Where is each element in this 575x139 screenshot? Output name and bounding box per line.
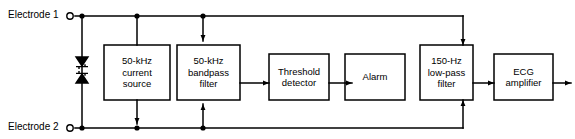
junction-dot xyxy=(79,125,84,130)
junction-dot xyxy=(134,13,139,18)
electrode-1-terminal-circle xyxy=(67,13,73,19)
junction-dot xyxy=(200,125,205,130)
diagram-lines xyxy=(0,0,575,139)
block-rect-alarm xyxy=(345,54,405,100)
zener-diode-upper xyxy=(76,57,88,69)
electrode-2-terminal-circle xyxy=(67,125,73,131)
zener-diode-lower xyxy=(76,71,88,83)
junction-dot xyxy=(79,13,84,18)
block-rect-ecg-amplifier xyxy=(494,54,553,100)
block-rect-threshold-detector xyxy=(269,54,329,100)
block-rect-current-source xyxy=(104,45,170,100)
block-rect-lowpass-filter xyxy=(420,45,473,100)
block-diagram-canvas: Electrode 1 Electrode 2 50-kHz current s… xyxy=(0,0,575,139)
electrode-1-label: Electrode 1 xyxy=(8,9,59,20)
electrode-2-label: Electrode 2 xyxy=(8,121,59,132)
junction-dot xyxy=(200,13,205,18)
block-rect-bandpass-filter xyxy=(177,45,240,100)
junction-dot xyxy=(134,125,139,130)
junction-dots xyxy=(79,13,205,130)
